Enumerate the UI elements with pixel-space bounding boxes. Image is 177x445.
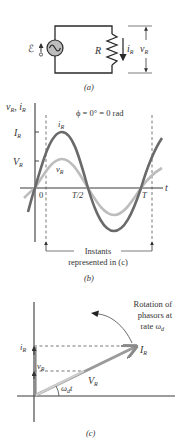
instants-text-line2: represented in (c) [68,257,128,267]
proj-iR-label: iR [20,342,26,353]
phasor-panel: Rotation of phasors at rate ωd iR vR IR … [17,299,175,438]
current-label: iR [127,43,134,55]
t-axis-label: t [165,182,168,193]
resistor-icon [107,34,117,65]
phase-label: ϕ = 0° = 0 rad [76,108,124,118]
circuit-wire [55,26,112,73]
voltage-label: vR [140,43,148,55]
caption-a: (a) [84,82,94,92]
proj-vR-label: vR [37,361,45,372]
phasor-VR-label: VR [88,375,98,387]
angle-label: ωdt [61,383,73,394]
phasor-IR-label: IR [139,344,147,356]
emf-label: ℰ [28,43,34,54]
current-curve [28,132,162,231]
resistor-label: R [94,45,101,56]
rotation-arc [98,314,132,343]
angle-arc [56,386,59,396]
circuit-panel: ℰ R iR vR (a) [28,26,152,92]
ac-source-icon [47,40,63,56]
curve-label-vR: vR [56,164,64,175]
x-tick-period: T [142,190,148,200]
caption-b: (b) [84,273,94,283]
y-axis-label: vR, iR [6,101,26,113]
waveform-panel: vR, iR ϕ = 0° = 0 rad IR VR iR vR 0 T/2 … [6,101,168,283]
tick-label-VR: VR [13,156,23,168]
caption-c: (c) [86,428,96,438]
rotation-text-line3: rate ωd [141,321,165,332]
rotation-text-line2: phasors at [138,310,173,320]
x-tick-half-period: T/2 [72,190,84,200]
rotation-text-line1: Rotation of [134,299,173,309]
phasor-VR-arrow [36,371,84,395]
rotation-arrowhead-icon [91,311,99,318]
emf-arrow-icon [39,44,42,56]
curve-label-iR: iR [58,119,64,130]
x-tick-0: 0 [39,190,43,200]
tick-label-IR: IR [13,127,21,139]
instants-text-line1: Instants [85,246,111,256]
resistive-ac-circuit-figure: ℰ R iR vR (a) [0,0,177,445]
